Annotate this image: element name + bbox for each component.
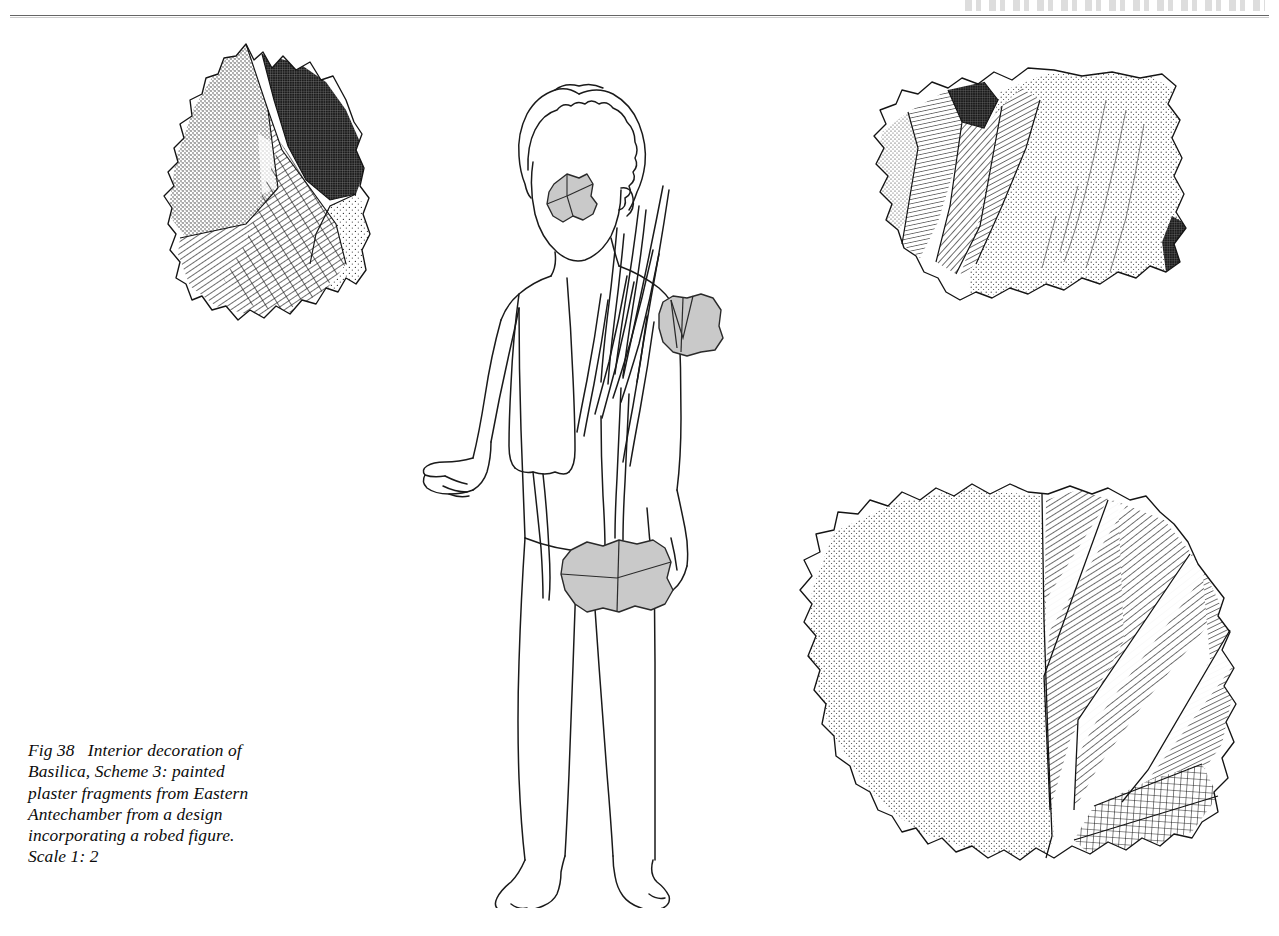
shoulder-left [501,276,551,320]
torso-left [519,308,525,538]
ear [621,188,633,216]
drapery-fold-7b [630,322,654,466]
robe-tail-2 [543,474,550,600]
robe-panel-right-edge [567,278,575,472]
neck-left [551,252,556,276]
arm-right-crease [671,538,677,570]
caption-line-5: incorporating a robed figure. [28,825,328,846]
caption-line-1: Fig 38 Interior decoration of [28,740,328,761]
caption-line-4: Antechamber from a design [28,804,328,825]
drapery-fold-9 [601,416,605,550]
page-top-rule [10,15,1269,16]
page-header-remnant [965,0,1265,11]
robed-figure [415,38,765,908]
drapery-fold-8 [615,388,621,538]
leg-left-outer [518,538,525,860]
page-top-rule-shadow [10,17,1269,18]
zone-broad-stipple-field [808,488,1054,858]
hand-left-finger-2 [443,486,467,492]
robe-tail-1 [533,472,543,598]
drapery-fold-8b [623,394,629,540]
hand-left-finger-1 [445,476,467,484]
fragment-bottom-right-drawing [778,480,1248,920]
arm-left-outer [473,320,501,458]
foot-left [495,856,565,908]
hand-left-finger-3 [449,494,469,497]
fragment-top-left [150,38,405,333]
fragment-top-right-drawing [850,66,1190,328]
foot-right [613,856,669,908]
patch-shoulder [547,174,597,222]
arm-right-outer [677,490,688,566]
robe-panel-left-edge [509,294,519,468]
fragment-top-right [850,66,1190,328]
robed-figure-drawing [415,38,765,908]
drapery-fold-6b [584,300,608,436]
fragment-top-left-drawing [150,38,405,333]
caption-line-6: Scale 1: 2 [28,846,328,867]
caption-line-3: plaster fragments from Eastern [28,783,328,804]
hand-left-thumb [423,458,473,477]
fragment-bottom-right [778,480,1248,920]
caption-line-2: Basilica, Scheme 3: painted [28,761,328,782]
foot-left-toe [511,904,527,908]
figure-caption: Fig 38 Interior decoration of Basilica, … [28,740,328,868]
foot-right-toe [649,894,665,899]
figure-page: Fig 38 Interior decoration of Basilica, … [0,0,1279,936]
